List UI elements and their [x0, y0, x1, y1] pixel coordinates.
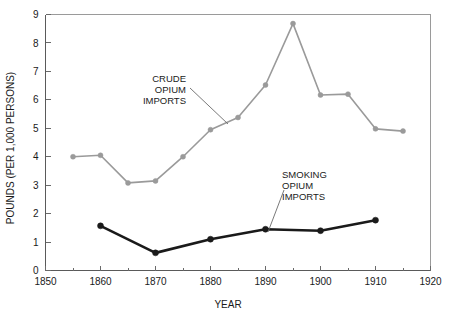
data-series-layer — [71, 21, 406, 256]
data-point-crude-opium — [126, 180, 131, 185]
y-tick-label: 9 — [33, 9, 39, 20]
x-axis-title: YEAR — [214, 299, 241, 310]
data-point-crude-opium — [318, 92, 323, 97]
series-smoking-opium — [98, 217, 379, 256]
x-tick-label: 1890 — [254, 276, 277, 287]
opium-imports-line-chart: 18501860187018801890190019101920 0123456… — [0, 0, 453, 317]
annotation-crude-label: CRUDEOPIUMIMPORTS — [143, 73, 228, 124]
y-tick-label: 0 — [33, 265, 39, 276]
chart-container: 18501860187018801890190019101920 0123456… — [0, 0, 453, 317]
data-point-smoking-opium — [153, 250, 159, 256]
y-tick-label: 7 — [33, 66, 39, 77]
y-tick-label: 4 — [33, 151, 39, 162]
plot-border-top-right — [46, 15, 431, 271]
y-tick-label: 6 — [33, 94, 39, 105]
data-point-crude-opium — [71, 154, 76, 159]
y-tick-label: 1 — [33, 237, 39, 248]
data-point-crude-opium — [291, 21, 296, 26]
y-tick-label: 5 — [33, 123, 39, 134]
x-tick-label: 1860 — [89, 276, 112, 287]
data-point-crude-opium — [236, 115, 241, 120]
x-tick-label: 1900 — [309, 276, 332, 287]
x-tick-label: 1850 — [34, 276, 57, 287]
annotation-label-crude-label: CRUDEOPIUMIMPORTS — [143, 73, 186, 106]
data-point-smoking-opium — [208, 236, 214, 242]
x-tick-label: 1910 — [364, 276, 387, 287]
y-axis-ticks — [46, 15, 51, 271]
annotation-leader-smoking-label — [268, 190, 284, 232]
series-annotations: CRUDEOPIUMIMPORTSSMOKINGOPIUMIMPORTS — [143, 73, 327, 232]
data-point-crude-opium — [263, 83, 268, 88]
annotation-smoking-label: SMOKINGOPIUMIMPORTS — [268, 169, 327, 232]
y-tick-label: 8 — [33, 38, 39, 49]
y-tick-label: 2 — [33, 208, 39, 219]
y-axis-tick-labels: 0123456789 — [33, 9, 39, 276]
data-point-crude-opium — [181, 154, 186, 159]
y-tick-label: 3 — [33, 180, 39, 191]
data-point-crude-opium — [401, 129, 406, 134]
data-point-smoking-opium — [263, 226, 269, 232]
data-point-crude-opium — [346, 92, 351, 97]
data-point-crude-opium — [98, 153, 103, 158]
annotation-leader-crude-label — [190, 88, 228, 124]
series-line-smoking-opium — [101, 220, 376, 253]
x-axis-ticks — [46, 266, 431, 271]
annotation-label-smoking-label: SMOKINGOPIUMIMPORTS — [282, 169, 327, 202]
data-point-smoking-opium — [318, 228, 324, 234]
series-crude-opium — [71, 21, 406, 185]
series-line-crude-opium — [73, 24, 403, 183]
x-tick-label: 1870 — [144, 276, 167, 287]
x-tick-label: 1880 — [199, 276, 222, 287]
x-tick-label: 1920 — [419, 276, 442, 287]
data-point-smoking-opium — [373, 217, 379, 223]
plot-frame — [46, 15, 431, 271]
plot-border-left-bottom — [46, 15, 431, 271]
data-point-crude-opium — [208, 127, 213, 132]
data-point-smoking-opium — [98, 223, 104, 229]
data-point-crude-opium — [153, 178, 158, 183]
x-axis-tick-labels: 18501860187018801890190019101920 — [34, 276, 442, 287]
y-axis-title: POUNDS (PER 1,000 PERSONS) — [5, 72, 16, 224]
data-point-crude-opium — [373, 126, 378, 131]
